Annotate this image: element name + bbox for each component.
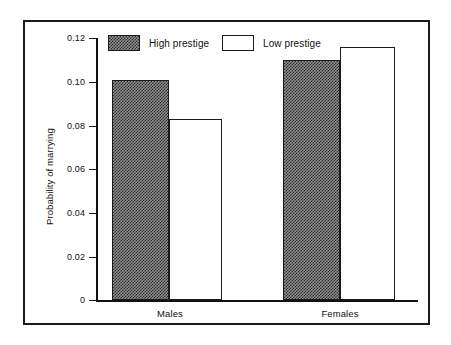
bar-males-low-prestige — [169, 119, 222, 300]
bar-females-low-prestige — [340, 47, 395, 300]
y-tick-label-0.02: 0.02 — [51, 253, 85, 262]
figure-container: 0.12 0.10 0.08 0.06 0.04 0.02 0 Probabil… — [0, 0, 451, 345]
y-tick-mark-0.08 — [89, 126, 96, 127]
bar-females-high-prestige — [283, 60, 340, 300]
y-tick-label-0: 0 — [51, 296, 85, 305]
x-category-label-females: Females — [300, 308, 380, 319]
plot-area: 0.12 0.10 0.08 0.06 0.04 0.02 0 Probabil… — [0, 0, 451, 345]
legend-label-low-prestige: Low prestige — [263, 38, 321, 49]
y-tick-label-0.08: 0.08 — [51, 122, 85, 131]
y-axis-label: Probability of marrying — [44, 128, 55, 225]
x-category-label-males: Males — [130, 308, 210, 319]
y-tick-mark-0.04 — [89, 213, 96, 214]
bar-males-high-prestige — [112, 80, 169, 300]
y-axis-line — [96, 38, 98, 302]
legend-item-low-prestige[interactable]: Low prestige — [222, 35, 321, 51]
y-tick-label-0.12: 0.12 — [51, 34, 85, 43]
legend-item-high-prestige[interactable]: High prestige — [108, 35, 209, 51]
y-tick-label-0.06: 0.06 — [51, 165, 85, 174]
legend-swatch-high-prestige-icon — [108, 35, 140, 51]
legend-label-high-prestige: High prestige — [149, 38, 209, 49]
y-tick-label-0.04: 0.04 — [51, 209, 85, 218]
y-tick-label-0.10: 0.10 — [51, 78, 85, 87]
y-tick-mark-0.02 — [89, 257, 96, 258]
y-tick-mark-0.10 — [89, 82, 96, 83]
y-tick-mark-0.06 — [89, 169, 96, 170]
y-tick-mark-0.12 — [89, 38, 96, 39]
y-tick-mark-0 — [89, 300, 96, 301]
x-axis-line — [96, 300, 418, 302]
legend-swatch-low-prestige-icon — [222, 35, 254, 51]
